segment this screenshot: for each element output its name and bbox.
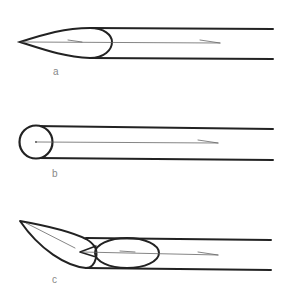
panel-b-drawing: [20, 126, 274, 161]
needle-tips-diagram: [0, 0, 287, 304]
panel-c-lower-wall: [86, 268, 271, 270]
panel-b-axis-line: [36, 142, 218, 143]
panel-b-upper-wall: [34, 126, 273, 129]
panel-a-conical-tip: [20, 28, 112, 58]
panel-c-drawing: [20, 221, 271, 270]
panel-a-drawing: [20, 28, 273, 59]
panel-b-label: b: [52, 168, 58, 179]
panel-c-lancet-bevel: [20, 221, 97, 268]
panel-c-axis-line: [82, 252, 218, 255]
panel-a-axis-line: [22, 42, 220, 43]
panel-c-inner-tick: [120, 251, 135, 252]
panel-c-heel-notch: [80, 246, 96, 257]
panel-a-upper-wall: [90, 28, 273, 29]
panel-b-lower-wall: [38, 158, 273, 160]
panel-a-label: a: [53, 66, 59, 77]
panel-a-inner-tick: [68, 40, 82, 42]
panel-c-label: c: [52, 274, 57, 285]
panel-a-lower-wall: [90, 58, 273, 59]
